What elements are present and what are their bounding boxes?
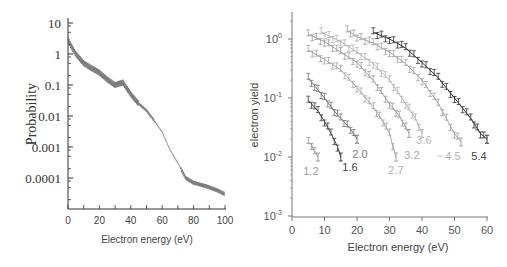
- x-tick-label: 60: [157, 215, 169, 226]
- probability-line: [68, 36, 225, 196]
- x-tick-label: 20: [94, 215, 106, 226]
- x-tick-label: 60: [481, 224, 493, 236]
- x-tick-label: 20: [351, 224, 363, 236]
- x-tick-label: 80: [188, 215, 200, 226]
- series-1.6: [306, 96, 343, 161]
- y-tick-label: 100: [266, 32, 282, 45]
- yield-curves: [306, 26, 489, 161]
- left-x-ticks: 020406080100: [65, 205, 234, 226]
- x-tick-label: 40: [125, 215, 137, 226]
- figure: 1010.10.010.0010.0001 020406080100 Proba…: [0, 0, 507, 267]
- x-tick-label: 100: [217, 215, 234, 226]
- series-3.6: [319, 28, 424, 138]
- curve-label: 2.7: [388, 164, 403, 176]
- y-tick-label: 10-3: [264, 209, 283, 222]
- series-2.0: [306, 73, 359, 143]
- y-tick-label: 0.0001: [25, 171, 61, 186]
- left-x-label: Electron energy (eV): [101, 234, 193, 245]
- series-5.4: [371, 28, 489, 143]
- curve-label: 1.2: [303, 165, 318, 177]
- y-tick-label: 10-2: [264, 150, 283, 163]
- curve-label: 1.6: [342, 161, 357, 173]
- right-chart: 10010-110-210-3 0102030405060 1.21.62.02…: [248, 12, 493, 253]
- right-x-label: Electron energy (eV): [348, 241, 449, 253]
- x-tick-label: 0: [289, 224, 295, 236]
- y-tick-label: 0.01: [38, 109, 61, 124]
- y-tick-label: 10: [48, 16, 61, 31]
- right-y-ticks: 10010-110-210-3: [264, 21, 292, 222]
- x-tick-label: 0: [65, 215, 71, 226]
- series-2.7: [306, 46, 398, 161]
- y-tick-label: 1: [55, 47, 62, 62]
- left-y-label: Probability: [24, 83, 39, 145]
- curve-label: 2.0: [352, 148, 367, 160]
- x-tick-label: 30: [383, 224, 395, 236]
- right-y-label: electron yield: [248, 83, 260, 148]
- curve-label: 3.6: [416, 134, 431, 146]
- right-x-ticks: 0102030405060: [289, 217, 493, 236]
- curve-label: 4.5: [445, 150, 460, 162]
- probability-curve: [68, 36, 225, 196]
- y-tick-label: 0.1: [45, 78, 61, 93]
- x-tick-label: 10: [318, 224, 330, 236]
- curve-labels: 1.21.62.02.73.23.64.55.4: [303, 134, 486, 177]
- curve-label: 5.4: [471, 150, 486, 162]
- x-tick-label: 50: [448, 224, 460, 236]
- left-chart: 1010.10.010.0010.0001 020406080100 Proba…: [24, 16, 234, 245]
- series-1.2: [306, 137, 320, 161]
- curve-label: 3.2: [404, 149, 419, 161]
- series-3.2: [306, 30, 411, 138]
- y-tick-label: 10-1: [264, 91, 283, 104]
- x-tick-label: 40: [416, 224, 428, 236]
